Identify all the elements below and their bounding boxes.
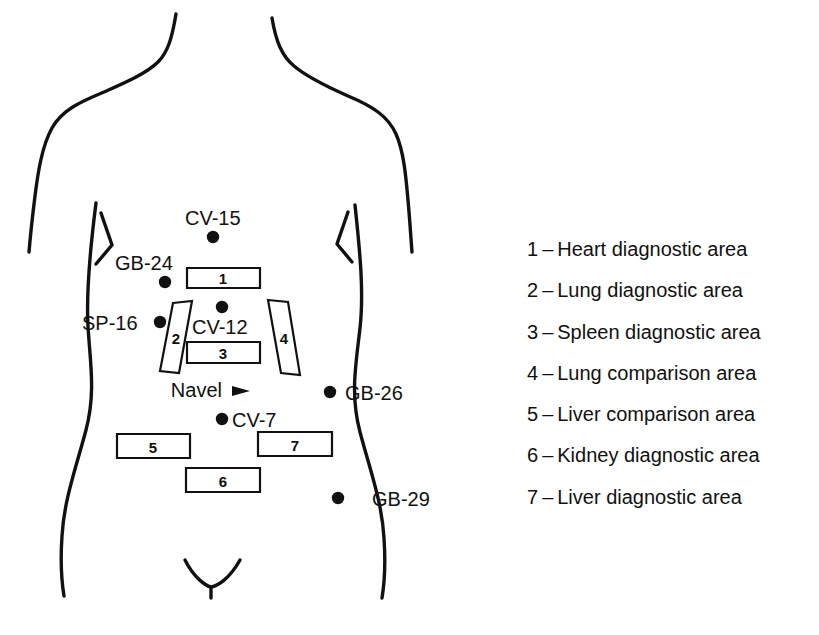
acupoint-dot-cv-7[interactable] bbox=[216, 413, 228, 425]
diagnostic-area-number-2: 2 bbox=[172, 330, 180, 347]
acupoint-label-cv-15: CV-15 bbox=[185, 207, 241, 229]
legend-separator: – bbox=[538, 321, 557, 343]
legend-key: 1 bbox=[527, 238, 538, 260]
legend-label: Heart diagnostic area bbox=[557, 238, 747, 260]
acupoint-label-cv-7: CV-7 bbox=[232, 409, 276, 431]
diagnostic-area-number-1: 1 bbox=[219, 270, 227, 287]
navel-marker-group: Navel bbox=[171, 379, 250, 401]
legend-key: 2 bbox=[527, 279, 538, 301]
body-outline-crotch-arc bbox=[185, 560, 240, 587]
acupoint-dot-gb-29[interactable] bbox=[332, 492, 344, 504]
diagnostic-area-number-5: 5 bbox=[149, 439, 157, 456]
legend-row: 7–Liver diagnostic area bbox=[527, 477, 817, 518]
rib-line-right-rib bbox=[337, 212, 352, 262]
legend-label: Spleen diagnostic area bbox=[557, 321, 760, 343]
legend-row: 6–Kidney diagnostic area bbox=[527, 435, 817, 476]
legend-label: Liver comparison area bbox=[557, 403, 755, 425]
acupoint-dot-gb-26[interactable] bbox=[324, 386, 336, 398]
legend-row: 5–Liver comparison area bbox=[527, 394, 817, 435]
legend-row: 4–Lung comparison area bbox=[527, 353, 817, 394]
legend-row: 2–Lung diagnostic area bbox=[527, 270, 817, 311]
acupoint-dot-cv-15[interactable] bbox=[207, 231, 219, 243]
acupoint-label-gb-26: GB-26 bbox=[345, 382, 403, 404]
legend-separator: – bbox=[538, 279, 557, 301]
legend-separator: – bbox=[538, 403, 557, 425]
legend-row: 1–Heart diagnostic area bbox=[527, 229, 817, 270]
legend-key: 7 bbox=[527, 486, 538, 508]
legend-separator: – bbox=[538, 238, 557, 260]
acupoint-label-gb-29: GB-29 bbox=[372, 488, 430, 510]
acupoint-dot-sp-16[interactable] bbox=[154, 316, 166, 328]
legend-label: Lung comparison area bbox=[557, 362, 756, 384]
navel-arrow-icon bbox=[232, 386, 250, 396]
legend-separator: – bbox=[538, 362, 557, 384]
acupoint-label-gb-24: GB-24 bbox=[115, 252, 173, 274]
diagnostic-area-number-4: 4 bbox=[280, 330, 289, 347]
legend-separator: – bbox=[538, 444, 557, 466]
acupoint-label-cv-12: CV-12 bbox=[192, 316, 248, 338]
acupoint-diagram-figure: 1234567 Navel CV-15GB-24SP-16CV-12GB-26C… bbox=[0, 0, 819, 635]
navel-label: Navel bbox=[171, 379, 222, 401]
body-outline-left-torso bbox=[61, 203, 96, 596]
acupoint-label-sp-16: SP-16 bbox=[82, 312, 138, 334]
legend: 1–Heart diagnostic area2–Lung diagnostic… bbox=[527, 229, 817, 518]
body-outline-right-neck-shoulder-arm bbox=[272, 18, 412, 252]
legend-row: 3–Spleen diagnostic area bbox=[527, 312, 817, 353]
legend-key: 5 bbox=[527, 403, 538, 425]
legend-separator: – bbox=[538, 486, 557, 508]
rib-line-left-rib bbox=[96, 213, 112, 264]
legend-key: 3 bbox=[527, 321, 538, 343]
legend-label: Lung diagnostic area bbox=[557, 279, 743, 301]
legend-label: Liver diagnostic area bbox=[557, 486, 742, 508]
legend-label: Kidney diagnostic area bbox=[557, 444, 759, 466]
acupoint-dot-gb-24[interactable] bbox=[159, 276, 171, 288]
diagnostic-area-number-7: 7 bbox=[291, 437, 299, 454]
diagnostic-area-number-3: 3 bbox=[219, 345, 227, 362]
legend-key: 6 bbox=[527, 444, 538, 466]
legend-key: 4 bbox=[527, 362, 538, 384]
diagnostic-area-number-6: 6 bbox=[219, 473, 227, 490]
acupoint-dot-cv-12[interactable] bbox=[216, 301, 228, 313]
